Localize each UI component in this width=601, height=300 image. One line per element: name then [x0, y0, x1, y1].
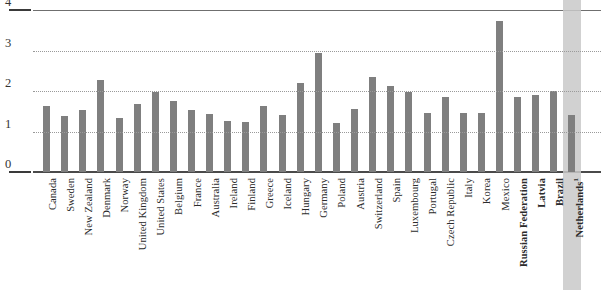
bar[interactable] [188, 110, 195, 172]
x-axis-tick-label: France [182, 176, 200, 296]
x-axis-tick-label: Greece [255, 176, 273, 296]
x-axis-tick-label: Poland [327, 176, 345, 296]
x-axis-tick-label: Spain [382, 176, 400, 296]
bar[interactable] [97, 80, 104, 172]
bar[interactable] [297, 83, 304, 172]
bar[interactable] [387, 86, 394, 172]
footnote-marker: 1 [572, 178, 580, 182]
x-axis-tick-label: Iceland [273, 176, 291, 296]
x-axis-tick-label: Luxembourg [400, 176, 418, 296]
x-axis-tick-label: Hungary [291, 176, 309, 296]
y-axis-tick-label: 1 [5, 117, 29, 132]
y-axis-tick-label: 4 [5, 0, 29, 10]
y-axis-tick-label: 0 [5, 157, 29, 172]
gridline-2 [33, 91, 601, 92]
x-axis-tick-label: Mexico [490, 176, 508, 296]
x-axis-tick-label: Brazil [545, 176, 563, 296]
x-axis-tick-label: Ireland [219, 176, 237, 296]
bar[interactable] [460, 113, 467, 172]
x-axis-tick-label: Denmark [92, 176, 110, 296]
bar[interactable] [79, 110, 86, 172]
bar[interactable] [315, 53, 322, 172]
bar[interactable] [532, 95, 539, 172]
x-axis-tick-label: United States [146, 176, 164, 296]
bar[interactable] [134, 104, 141, 172]
chart-title-cropped [0, 0, 601, 7]
y-axis-tick-label: 2 [5, 76, 29, 91]
x-axis-tick-label: Canada [38, 176, 56, 296]
x-axis-labels: CanadaSwedenNew ZealandDenmarkNorwayUnit… [33, 176, 601, 300]
x-axis-tick-label: Switzerland [364, 176, 382, 296]
y-axis-tick-label: 3 [5, 36, 29, 51]
bar[interactable] [260, 106, 267, 172]
x-axis-tick-label-text: Netherlands1 [572, 178, 585, 238]
bar[interactable] [496, 21, 503, 172]
x-axis-tick-label: Netherlands1 [563, 176, 581, 296]
bar[interactable] [478, 113, 485, 172]
bar[interactable] [279, 115, 286, 172]
bar[interactable] [224, 121, 231, 172]
bar[interactable] [43, 106, 50, 172]
x-axis-tick-label: Czech Republic [436, 176, 454, 296]
x-axis-tick-label: Sweden [56, 176, 74, 296]
x-axis-tick-label: Austria [346, 176, 364, 296]
x-axis-tick-label: Australia [201, 176, 219, 296]
bar[interactable] [424, 113, 431, 172]
bar[interactable] [242, 122, 249, 172]
bar[interactable] [170, 101, 177, 172]
gridline-1 [33, 132, 601, 133]
bar[interactable] [116, 118, 123, 172]
x-axis-tick-label: Finland [237, 176, 255, 296]
x-axis-tick-label: Latvia [527, 176, 545, 296]
bar[interactable] [514, 97, 521, 172]
x-axis-tick-label: New Zealand [74, 176, 92, 296]
x-axis-tick-label: Italy [454, 176, 472, 296]
x-axis-tick-label: Germany [309, 176, 327, 296]
bar[interactable] [568, 115, 575, 173]
x-axis-tick-label: Belgium [164, 176, 182, 296]
bar[interactable] [442, 97, 449, 172]
bar[interactable] [61, 116, 68, 172]
bar[interactable] [333, 123, 340, 172]
x-axis-tick-label: United Kingdom [128, 176, 146, 296]
gridline-3 [33, 51, 601, 52]
x-axis-tick-label: Russian Federation [509, 176, 527, 296]
bar[interactable] [351, 109, 358, 172]
bar[interactable] [206, 114, 213, 172]
bar-chart: 01234 CanadaSwedenNew ZealandDenmarkNorw… [0, 0, 601, 300]
x-axis-tick-label: Portugal [418, 176, 436, 296]
x-axis-tick-label: Norway [110, 176, 128, 296]
plot-area: 01234 [33, 10, 601, 172]
x-axis-tick-label: Korea [472, 176, 490, 296]
